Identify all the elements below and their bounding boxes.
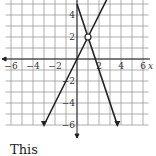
svg-text:2: 2 <box>69 32 75 42</box>
axes <box>2 0 150 138</box>
svg-text:−2: −2 <box>48 61 61 71</box>
svg-text:4: 4 <box>69 10 75 20</box>
svg-text:−6: −6 <box>4 61 18 71</box>
svg-text:−4: −4 <box>26 61 40 71</box>
svg-text:4: 4 <box>118 61 124 71</box>
svg-text:−4: −4 <box>62 98 76 108</box>
svg-text:−6: −6 <box>62 120 76 130</box>
caption-text: This <box>10 143 38 156</box>
svg-text:x: x <box>148 61 153 71</box>
coordinate-plane: −6−4−2246x42−2−4−6 <box>0 0 156 140</box>
svg-text:6: 6 <box>140 61 146 71</box>
